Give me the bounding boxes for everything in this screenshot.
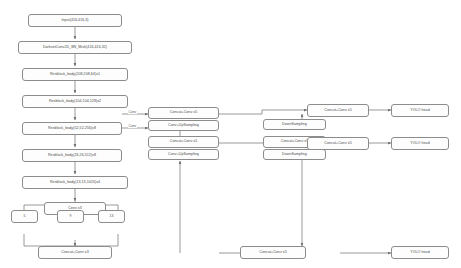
node-label: YOLO head bbox=[410, 109, 429, 113]
node-label: Concat+Conv x5 bbox=[170, 140, 197, 144]
node-panet-mid-concat: Concat+Conv x5 bbox=[148, 136, 219, 148]
edge-label-conv-upper: Conv bbox=[128, 110, 137, 114]
node-label: YOLO head bbox=[410, 142, 429, 146]
node-resblock-5: Resblock_body(13,13,1024)x4 bbox=[22, 176, 128, 189]
node-out-bottom-concat: Concat+Conv x5 bbox=[240, 246, 306, 259]
node-yolo-head-1: YOLO head bbox=[391, 104, 449, 117]
node-panet-top-concat: Concat+Conv x5 bbox=[148, 107, 219, 119]
node-spp-pool-5: 5 bbox=[11, 210, 38, 223]
node-label: Resblock_body(26,26,512)x8 bbox=[48, 154, 96, 158]
node-label: DownSampling bbox=[282, 153, 307, 157]
node-spp-pool-13: 13 bbox=[98, 210, 125, 223]
node-downsampling-1: DownSampling bbox=[263, 119, 326, 130]
node-upsampling-1: Conv+UpSampling bbox=[148, 120, 219, 131]
node-label: Resblock_body(52,52,256)x8 bbox=[48, 127, 96, 131]
node-label: Resblock_body(13,13,1024)x4 bbox=[50, 181, 100, 185]
node-label: Conv+UpSampling bbox=[168, 124, 199, 128]
node-label: 5 bbox=[24, 215, 26, 219]
diagram-canvas: Input(416,416,3) DarknetConv2D_BN_Mish(4… bbox=[0, 0, 461, 268]
node-out-mid-concat: Concat+Conv x5 bbox=[307, 137, 369, 150]
node-label: Concat+Conv x3 bbox=[61, 251, 88, 255]
node-yolo-head-2: YOLO head bbox=[391, 137, 449, 150]
node-label: Concat+Conv x5 bbox=[259, 251, 286, 255]
node-label: DownSampling bbox=[282, 123, 307, 127]
node-downsampling-2: DownSampling bbox=[263, 149, 326, 160]
node-spp-pool-9: 9 bbox=[57, 210, 84, 223]
node-input: Input(416,416,3) bbox=[28, 14, 122, 27]
node-resblock-3: Resblock_body(52,52,256)x8 bbox=[22, 122, 122, 135]
node-label: Concat+Conv x5 bbox=[170, 111, 197, 115]
node-label: Input(416,416,3) bbox=[61, 19, 88, 23]
node-label: Concat+Conv x5 bbox=[324, 109, 351, 113]
node-out-top-concat: Concat+Conv x5 bbox=[307, 104, 369, 117]
node-label: YOLO head bbox=[410, 251, 429, 255]
node-label: DarknetConv2D_BN_Mish(416,416,32) bbox=[43, 46, 107, 50]
node-label: Concat+Conv x5 bbox=[281, 140, 308, 144]
edge-label-conv-lower: Conv bbox=[128, 124, 137, 128]
node-label: Resblock_body(208,208,64)x1 bbox=[50, 73, 100, 77]
node-upsampling-2: Conv+UpSampling bbox=[148, 149, 219, 160]
node-label: Concat+Conv x5 bbox=[324, 142, 351, 146]
node-spp-concat: Concat+Conv x3 bbox=[38, 246, 112, 259]
node-label: Conv+UpSampling bbox=[168, 153, 199, 157]
node-resblock-1: Resblock_body(208,208,64)x1 bbox=[22, 68, 128, 81]
node-resblock-4: Resblock_body(26,26,512)x8 bbox=[22, 149, 122, 162]
edge-label-text: Conv bbox=[129, 110, 137, 114]
node-label: 9 bbox=[70, 215, 72, 219]
node-label: 13 bbox=[110, 215, 114, 219]
node-resblock-2: Resblock_body(104,104,128)x2 bbox=[22, 95, 128, 108]
edge-label-text: Conv bbox=[129, 124, 137, 128]
node-label: Resblock_body(104,104,128)x2 bbox=[49, 100, 101, 104]
node-yolo-head-3: YOLO head bbox=[391, 246, 449, 259]
node-darknetconv-stem: DarknetConv2D_BN_Mish(416,416,32) bbox=[18, 41, 132, 54]
